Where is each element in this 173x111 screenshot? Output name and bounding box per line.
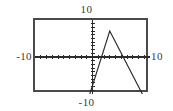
plot-frame[interactable] xyxy=(33,18,148,92)
x-min-label: -10 xyxy=(2,51,32,62)
graphing-calculator-screenshot: 10 -10 10 -10 xyxy=(0,0,173,111)
plot-canvas[interactable] xyxy=(35,20,150,94)
axes-group xyxy=(35,20,150,94)
y-max-label: 10 xyxy=(0,4,173,15)
curve-polyline xyxy=(86,31,150,94)
x-max-label: 10 xyxy=(151,51,173,62)
plotted-curve xyxy=(86,31,150,94)
y-min-label: -10 xyxy=(0,97,173,108)
